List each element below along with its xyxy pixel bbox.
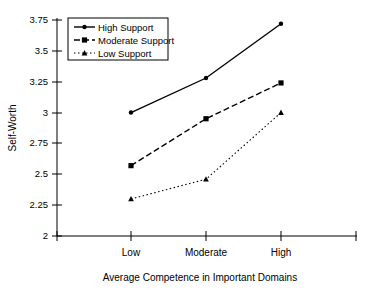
legend-label-high-support: High Support: [98, 22, 154, 33]
y-tick-label: 2.5: [35, 168, 48, 179]
series-line: [131, 113, 281, 199]
y-tick-label: 2: [43, 230, 48, 241]
y-tick-label: 3: [43, 107, 48, 118]
data-point-square: [278, 80, 283, 85]
data-point-circle: [82, 25, 86, 29]
legend: High Support Moderate Support Low Suppor…: [68, 18, 174, 60]
data-point-square: [203, 116, 208, 121]
data-point-square: [128, 163, 133, 168]
series-line: [131, 83, 281, 166]
y-tick-label: 3.5: [35, 45, 48, 56]
y-tick-label: 2.25: [30, 199, 49, 210]
x-tick-label-high: High: [271, 247, 292, 258]
x-tick-label-moderate: Moderate: [185, 247, 228, 258]
data-point-circle: [279, 22, 283, 26]
data-point-square: [82, 37, 87, 42]
legend-label-moderate-support: Moderate Support: [98, 35, 174, 46]
data-point-circle: [129, 110, 133, 114]
y-tick-label: 3.25: [30, 76, 49, 87]
legend-label-low-support: Low Support: [98, 48, 152, 59]
line-chart: 3.75 3.5 3.25 3 2.75 2.5 2.25 2 Low Mode…: [0, 0, 366, 290]
data-point-circle: [204, 76, 208, 80]
y-tick-label: 3.75: [30, 14, 49, 25]
y-tick-label: 2.75: [30, 137, 49, 148]
series-moderate-support: [128, 80, 283, 168]
series-low-support: [128, 110, 284, 202]
data-point-triangle: [128, 196, 134, 201]
chart-container: 3.75 3.5 3.25 3 2.75 2.5 2.25 2 Low Mode…: [0, 0, 366, 290]
x-axis-title: Average Competence in Important Domains: [103, 272, 297, 283]
y-axis-title: Self-Worth: [7, 104, 18, 151]
data-point-triangle: [278, 110, 284, 115]
x-tick-label-low: Low: [122, 247, 141, 258]
